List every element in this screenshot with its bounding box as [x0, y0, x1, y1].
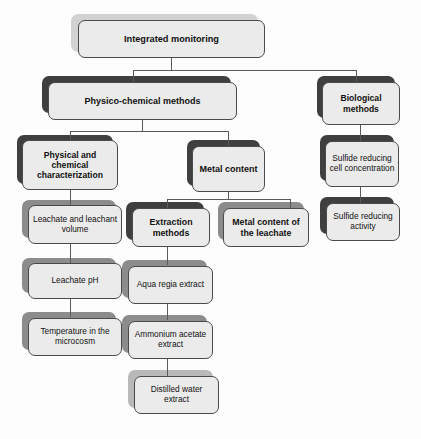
node-label: Integrated monitoring — [82, 34, 261, 45]
node-metal-content-of-the-leachate[interactable]: Metal content of the leachate — [223, 208, 309, 247]
connector-to-biological — [356, 70, 357, 82]
connector-to-extraction-methods — [167, 199, 168, 208]
node-label: Temperature in the microcosm — [32, 327, 118, 347]
connector-ammonium-to-distilled — [167, 359, 168, 377]
connector-aquaregia-to-ammonium — [167, 304, 168, 320]
node-distilled-water-extract[interactable]: Distilled water extract — [134, 376, 219, 414]
connector-physchemchar-to-leachate — [70, 190, 71, 205]
node-ammonium-acetate-extract[interactable]: Ammonium acetate extract — [128, 321, 213, 359]
node-physico-chemical-methods[interactable]: Physico-chemical methods — [48, 82, 237, 120]
connector-extraction-to-aquaregia — [167, 247, 168, 265]
node-temperature-in-the-microcosm[interactable]: Temperature in the microcosm — [28, 318, 122, 356]
node-label: Physical and chemical characterization — [26, 150, 114, 180]
node-label: Distilled water extract — [138, 385, 215, 405]
connector-ph-to-temperature — [70, 299, 71, 317]
node-label: Extraction methods — [136, 217, 206, 238]
node-label: Biological methods — [326, 93, 396, 113]
connector-biological-to-sulfide-cell — [360, 125, 361, 141]
node-label: Aqua regia extract — [132, 280, 209, 290]
node-biological-methods[interactable]: Biological methods — [322, 82, 400, 125]
node-label: Metal content — [196, 164, 261, 175]
node-aqua-regia-extract[interactable]: Aqua regia extract — [128, 266, 213, 304]
flowchart-canvas: Integrated monitoring Physico-chemical m… — [0, 0, 421, 439]
node-label: Leachate pH — [32, 276, 118, 286]
node-label: Sulfide reducing cell concentration — [329, 154, 395, 174]
connector-to-metal-content-leachate — [290, 199, 291, 208]
node-metal-content[interactable]: Metal content — [192, 146, 265, 192]
node-extraction-methods[interactable]: Extraction methods — [132, 208, 210, 247]
node-label: Physico-chemical methods — [52, 96, 233, 107]
connector-to-metal-content — [228, 131, 229, 146]
connector-metalcontent-bus — [167, 199, 291, 200]
node-label: Ammonium acetate extract — [132, 330, 209, 350]
node-leachate-ph[interactable]: Leachate pH — [28, 263, 122, 299]
connector-to-physico-chemical — [133, 70, 134, 82]
connector-physchem-bus — [70, 131, 229, 132]
node-physical-chemical-characterization[interactable]: Physical and chemical characterization — [22, 140, 118, 190]
node-label: Sulfide reducing activity — [330, 212, 396, 232]
node-label: Metal content of the leachate — [227, 217, 305, 238]
connector-sulfidecell-to-sulfideactivity — [360, 187, 361, 203]
node-sulfide-reducing-cell-concentration[interactable]: Sulfide reducing cell concentration — [325, 141, 399, 187]
node-label: Leachate and leachant volume — [32, 215, 118, 235]
node-leachate-and-leachant-volume[interactable]: Leachate and leachant volume — [28, 205, 122, 244]
connector-leachatevolume-to-ph — [70, 244, 71, 263]
connector-root-bus — [133, 70, 357, 71]
node-sulfide-reducing-activity[interactable]: Sulfide reducing activity — [326, 203, 400, 241]
node-integrated-monitoring[interactable]: Integrated monitoring — [78, 20, 265, 58]
